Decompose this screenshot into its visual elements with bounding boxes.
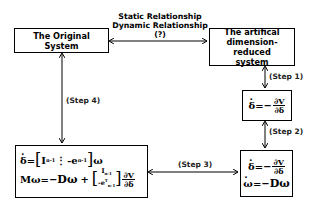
delta-dot: δ xyxy=(248,161,255,172)
artificial-system-box: The artifical dimension-reduced system xyxy=(209,28,295,66)
M-omega-dot: Mω xyxy=(20,174,41,185)
model-row2: Mω =− Dω + [ In-1 -eTn-1 ] ∂V ∂δ xyxy=(20,168,135,190)
artificial-line3: system xyxy=(235,57,268,67)
delta-dot: δ xyxy=(20,155,27,166)
equals: = xyxy=(27,155,35,166)
denominator: ∂δ xyxy=(274,167,284,175)
sub: n-1 xyxy=(108,184,115,189)
sub: n-1 xyxy=(104,171,111,176)
row1-equation: δ =− ∂V ∂δ xyxy=(248,158,285,175)
omega: ω xyxy=(93,155,103,166)
original-system-box: The Original System xyxy=(14,28,109,53)
partial-fraction: ∂V ∂δ xyxy=(272,158,284,175)
gradient-equation-box: δ =− ∂V ∂δ xyxy=(242,90,292,121)
equals-minus: =− xyxy=(255,100,272,111)
right-bracket: ] xyxy=(115,172,121,186)
equals-minus: =− xyxy=(41,174,58,185)
sub: n-1 xyxy=(46,157,55,163)
e: -e xyxy=(98,180,105,188)
vector-e: -e xyxy=(67,155,78,166)
equals-minus: =− xyxy=(253,178,270,189)
separator: ⋮ xyxy=(56,155,66,166)
damped-equation-box: δ =− ∂V ∂δ ω =− Dω xyxy=(240,150,293,197)
dynamic-relationship-text: Dynamic Relationship xyxy=(110,21,210,30)
row2-equation: ω =− Dω xyxy=(243,177,289,190)
omega-dot: ω xyxy=(243,178,253,189)
delta-dot: δ xyxy=(249,100,256,111)
model-row1: δ = [ In-1 ⋮ -en-1 ] ω xyxy=(20,153,103,167)
plus: + xyxy=(80,174,88,185)
original-system-label: The Original System xyxy=(15,31,108,51)
question-mark-text: (?) xyxy=(110,30,210,39)
sub: n-1 xyxy=(78,157,87,163)
column-vector: In-1 -eTn-1 xyxy=(98,168,115,190)
denominator: ∂δ xyxy=(274,106,284,114)
artificial-line1: The artifical xyxy=(224,27,279,37)
partial-fraction: ∂V ∂δ xyxy=(122,171,134,188)
partial-fraction: ∂V ∂δ xyxy=(273,97,285,114)
equals-minus: =− xyxy=(255,161,272,172)
relationship-label: Static Relationship Dynamic Relationship… xyxy=(110,12,210,39)
damping-term: Dω xyxy=(57,173,77,186)
full-model-box: δ = [ In-1 ⋮ -en-1 ] ω Mω =− Dω + [ In-1… xyxy=(15,145,148,198)
artificial-line2: dimension-reduced xyxy=(210,37,294,57)
step4-label: (Step 4) xyxy=(66,96,100,105)
denominator: ∂δ xyxy=(124,180,134,188)
step1-label: (Step 1) xyxy=(269,72,303,81)
step2-label: (Step 2) xyxy=(269,127,303,136)
static-relationship-text: Static Relationship xyxy=(110,12,210,21)
sup: T xyxy=(105,178,108,183)
step3-label: (Step 3) xyxy=(178,160,212,169)
rhs: Dω xyxy=(270,177,290,190)
gradient-equation: δ =− ∂V ∂δ xyxy=(249,97,286,114)
